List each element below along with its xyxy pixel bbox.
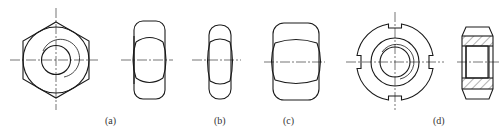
label-c: (c) <box>283 115 294 126</box>
thin-nut-side-view <box>192 25 241 99</box>
hex-nut-top-view <box>10 8 98 110</box>
label-d: (d) <box>433 115 445 126</box>
label-a: (a) <box>105 115 116 126</box>
slotted-nut-section-view <box>457 27 500 99</box>
hex-nut-side-view <box>121 21 173 99</box>
slotted-nut-top-view <box>346 12 444 110</box>
nut-drawings <box>0 0 502 138</box>
thick-nut-side-view <box>264 23 325 100</box>
label-b: (b) <box>214 115 226 126</box>
